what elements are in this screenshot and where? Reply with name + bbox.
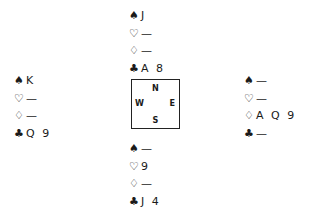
east-spades-row: ♠ —: [244, 72, 296, 90]
club-icon: ♣: [14, 125, 26, 143]
west-clubs-row: ♣ Q 9: [14, 125, 51, 143]
diamond-icon: ♢: [244, 107, 256, 125]
west-clubs-cards: Q 9: [26, 125, 51, 143]
north-spades-row: ♠ J: [129, 7, 165, 25]
west-spades-row: ♠ K: [14, 72, 51, 90]
diamond-icon: ♢: [129, 42, 141, 60]
east-clubs-cards: —: [256, 125, 269, 143]
north-diamonds-row: ♢ —: [129, 42, 165, 60]
south-diamonds-cards: —: [141, 175, 154, 193]
west-diamonds-cards: —: [26, 107, 39, 125]
north-diamonds-cards: —: [141, 42, 154, 60]
west-hand: ♠ K ♡ — ♢ — ♣ Q 9: [14, 72, 51, 142]
north-hearts-row: ♡ —: [129, 25, 165, 43]
south-spades-cards: —: [141, 140, 154, 158]
spade-icon: ♠: [129, 140, 141, 158]
south-hand: ♠ — ♡ 9 ♢ — ♣ J 4: [129, 140, 161, 210]
north-clubs-cards: A 8: [141, 60, 165, 78]
diamond-icon: ♢: [14, 107, 26, 125]
compass-box: N W E S: [131, 79, 180, 129]
club-icon: ♣: [244, 125, 256, 143]
east-diamonds-cards: A Q 9: [256, 107, 296, 125]
compass-south-label: S: [132, 115, 179, 125]
north-hearts-cards: —: [141, 25, 154, 43]
south-clubs-cards: J 4: [141, 193, 161, 211]
east-hand: ♠ — ♡ — ♢ A Q 9 ♣ —: [244, 72, 296, 142]
club-icon: ♣: [129, 193, 141, 211]
spade-icon: ♠: [129, 7, 141, 25]
compass-east-label: E: [169, 98, 175, 108]
east-hearts-cards: —: [256, 90, 269, 108]
south-hearts-row: ♡ 9: [129, 158, 161, 176]
heart-icon: ♡: [244, 90, 256, 108]
south-hearts-cards: 9: [141, 158, 150, 176]
heart-icon: ♡: [14, 90, 26, 108]
west-hearts-row: ♡ —: [14, 90, 51, 108]
east-spades-cards: —: [256, 72, 269, 90]
west-hearts-cards: —: [26, 90, 39, 108]
east-clubs-row: ♣ —: [244, 125, 296, 143]
diamond-icon: ♢: [129, 175, 141, 193]
north-clubs-row: ♣ A 8: [129, 60, 165, 78]
club-icon: ♣: [129, 60, 141, 78]
heart-icon: ♡: [129, 158, 141, 176]
east-diamonds-row: ♢ A Q 9: [244, 107, 296, 125]
compass-north-label: N: [132, 83, 179, 93]
east-hearts-row: ♡ —: [244, 90, 296, 108]
heart-icon: ♡: [129, 25, 141, 43]
north-spades-cards: J: [141, 7, 146, 25]
spade-icon: ♠: [244, 72, 256, 90]
south-spades-row: ♠ —: [129, 140, 161, 158]
spade-icon: ♠: [14, 72, 26, 90]
west-diamonds-row: ♢ —: [14, 107, 51, 125]
compass-west-label: W: [135, 98, 144, 108]
south-diamonds-row: ♢ —: [129, 175, 161, 193]
north-hand: ♠ J ♡ — ♢ — ♣ A 8: [129, 7, 165, 77]
west-spades-cards: K: [26, 72, 35, 90]
south-clubs-row: ♣ J 4: [129, 193, 161, 211]
